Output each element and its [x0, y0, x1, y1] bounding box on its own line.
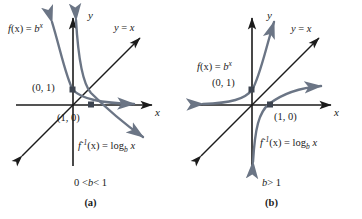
log-label-var: x: [128, 140, 135, 151]
logarithm-curve: [76, 20, 143, 137]
point-marker-0-1: [70, 87, 76, 93]
condition-prefix: 0 <: [74, 177, 88, 188]
identity-label-eq: =: [119, 22, 130, 33]
exponential-function-label: f(x) = bx: [197, 62, 232, 73]
logarithm-curve: [253, 86, 321, 162]
point-marker-0-1: [249, 87, 255, 93]
identity-label-suffix: x: [307, 23, 312, 34]
logarithm-function-label: f-1(x) = logb x: [78, 141, 135, 152]
y-axis-label: y: [88, 10, 93, 21]
log-label-arg: (x): [87, 140, 99, 151]
figure-container: y x f(x) = bx y = x (0, 1) (1, 0) f-1(x)…: [0, 0, 362, 219]
panel-a-tag: (a): [0, 198, 181, 209]
exponential-label-arg: (x): [200, 61, 212, 72]
panel-a: y x f(x) = bx y = x (0, 1) (1, 0) f-1(x)…: [0, 0, 181, 219]
log-label-arg: (x): [269, 137, 281, 148]
exponential-function-label: f(x) = bx: [8, 24, 43, 35]
point-label-0-1: (0, 1): [212, 78, 235, 89]
panel-b-tag: (b): [181, 198, 362, 209]
identity-label-eq: =: [296, 23, 307, 34]
exponential-label-eq: =: [212, 61, 223, 72]
log-label-eq: = log: [99, 140, 124, 151]
panel-b: y x y = x f(x) = bx (0, 1) (1, 0) f-1(x)…: [181, 0, 362, 219]
point-marker-1-0: [267, 102, 273, 108]
log-label-var: x: [310, 137, 317, 148]
point-label-0-1: (0, 1): [32, 83, 55, 94]
exponential-label-arg: (x): [11, 23, 23, 34]
logarithm-function-label: f-1(x) = logb x: [260, 138, 317, 149]
y-axis-label: y: [267, 10, 272, 21]
exponential-label-eq: =: [23, 23, 34, 34]
exponential-label-power: x: [229, 59, 232, 68]
condition-suffix: > 1: [267, 177, 281, 188]
point-label-1-0: (1, 0): [274, 112, 297, 123]
x-axis-label: x: [334, 107, 339, 118]
identity-label-suffix: x: [130, 22, 135, 33]
panel-b-condition: b> 1: [181, 178, 362, 189]
x-axis-label: x: [155, 107, 160, 118]
panel-a-condition: 0 <b< 1: [0, 178, 181, 189]
point-marker-1-0: [88, 102, 94, 108]
identity-line-label: y = x: [114, 23, 135, 34]
log-label-eq: = log: [281, 137, 306, 148]
condition-suffix: < 1: [93, 177, 107, 188]
exponential-curve: [52, 22, 134, 104]
point-label-1-0: (1, 0): [57, 113, 80, 124]
identity-line-label: y = x: [291, 24, 312, 35]
exponential-label-power: x: [40, 21, 43, 30]
